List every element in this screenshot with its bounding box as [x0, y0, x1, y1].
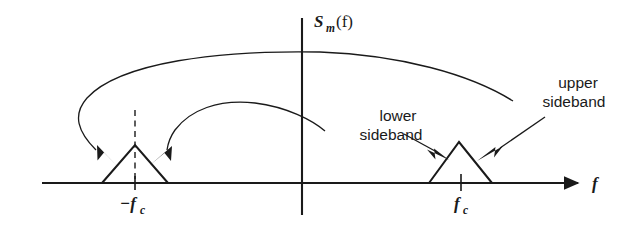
- tick-label-negative-carrier: −f c: [120, 194, 145, 216]
- upper-sideband-to-positive-triangle-leader: [477, 117, 545, 161]
- upper-sideband-label-line1: upper: [558, 74, 598, 91]
- axis-group: [42, 18, 578, 215]
- y-axis-label: S m (f): [314, 12, 353, 34]
- tick-label-negative-carrier-sub: c: [140, 204, 145, 216]
- negative-frequency-triangle: [102, 110, 168, 183]
- lower-sideband-label-line2: sideband: [360, 126, 423, 143]
- outer-arc-arrowhead: [97, 145, 118, 167]
- y-axis-label-argument: (f): [336, 12, 353, 31]
- spectrum-diagram: S m (f) f −f c f c lower sideband upper …: [0, 0, 626, 250]
- upper-sideband-leader-arrowhead: [477, 146, 503, 161]
- upper-sideband-leader-line: [500, 117, 545, 148]
- inner-arc-arrowhead: [149, 146, 172, 166]
- upper-sideband-to-negative-triangle-arc: [78, 52, 513, 167]
- lower-sideband-leader-arrowhead: [427, 149, 449, 161]
- outer-arc-path: [78, 52, 513, 150]
- tick-label-negative-carrier-main: −f: [120, 194, 138, 213]
- upper-sideband-label: upper sideband: [543, 74, 606, 110]
- lower-sideband-label: lower sideband: [360, 107, 423, 143]
- figure-root: S m (f) f −f c f c lower sideband upper …: [0, 0, 626, 250]
- tick-label-positive-carrier: f c: [454, 194, 468, 216]
- upper-sideband-label-line2: sideband: [543, 93, 606, 110]
- lower-sideband-to-negative-triangle-arc: [149, 102, 325, 166]
- y-axis-label-main: S: [314, 12, 323, 31]
- x-axis-label: f: [592, 174, 600, 193]
- tick-label-positive-carrier-main: f: [454, 194, 462, 213]
- tick-label-positive-carrier-sub: c: [463, 204, 468, 216]
- lower-sideband-label-line1: lower: [379, 107, 416, 124]
- y-axis-label-subscript: m: [326, 22, 335, 34]
